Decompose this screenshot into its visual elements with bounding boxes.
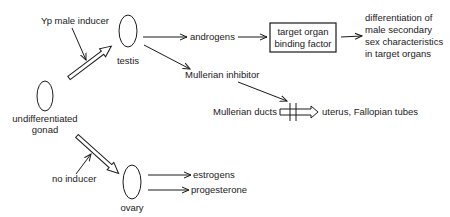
male-outcome-line4: in target organs [365,48,431,59]
undifferentiated-gonad-label-line1: undifferentiated [12,113,77,124]
blocked-duct-arrow [280,103,318,121]
binding-factor-box: target organ binding factor [270,23,336,52]
estrogens-label: estrogens [193,169,235,180]
yp-male-inducer-label: Yp male inducer [41,15,109,26]
ovary-label: ovary [120,202,143,213]
progesterone-label: progesterone [191,184,247,195]
box-to-outcome-arrow [341,36,362,37]
androgens-label: androgens [190,31,235,42]
mullerian-inhibitor-label: Mullerian inhibitor [185,69,259,80]
male-outcome-text: differentiation of male secondary sex ch… [365,12,443,59]
binding-factor-line2: binding factor [274,38,331,49]
testis-oval [119,15,137,47]
inhibitor-to-ducts-arrow [238,82,287,101]
undifferentiated-gonad-node: undifferentiated gonad [12,81,77,135]
undifferentiated-gonad-label-line2: gonad [32,124,58,135]
uterus-fallopian-tubes-label: uterus, Fallopian tubes [322,106,418,117]
testis-label: testis [117,55,139,66]
male-outcome-line1: differentiation of [365,12,433,23]
no-inducer-arrow [76,154,91,174]
no-inducer-label: no inducer [52,173,96,184]
ovary-oval [123,165,141,199]
male-inducer-arrow [72,28,86,60]
binding-factor-line1: target organ [277,26,328,37]
testis-to-mullerian-inhibitor-arrow [144,45,190,69]
gonad-differentiation-diagram: undifferentiated gonad Yp male inducer t… [0,0,450,217]
male-outcome-line3: sex characteristics [365,36,443,47]
hollow-arrow-to-ovary [74,132,122,177]
undifferentiated-gonad-oval [37,81,53,111]
mullerian-ducts-label: Mullerian ducts [213,106,277,117]
male-outcome-line2: male secondary [365,24,432,35]
testis-node: testis [117,15,139,66]
ovary-node: ovary [120,165,143,213]
hollow-arrow-to-testis [66,42,114,82]
